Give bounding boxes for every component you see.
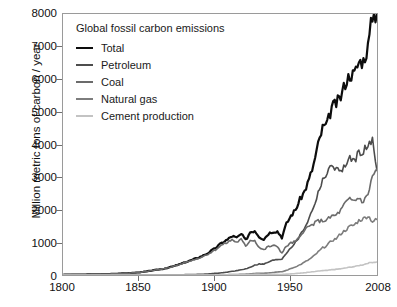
legend-swatch-icon: [76, 64, 93, 66]
legend-swatch-icon: [76, 98, 93, 100]
x-tick-label: 2008: [365, 281, 391, 293]
x-tick-mark: [214, 276, 215, 281]
legend-item: Total: [74, 39, 284, 56]
legend-item-label: Cement production: [101, 110, 194, 122]
legend-item: Petroleum: [74, 56, 284, 73]
chart-legend: Global fossil carbon emissions TotalPetr…: [74, 22, 284, 124]
series-line-petroleum: [63, 137, 377, 275]
legend-swatch-icon: [76, 81, 93, 83]
legend-title: Global fossil carbon emissions: [76, 22, 284, 34]
y-tick-mark: [56, 210, 62, 211]
y-tick-mark: [56, 79, 62, 80]
y-tick-mark: [56, 46, 62, 47]
x-tick-label: 1950: [277, 281, 303, 293]
x-tick-label: 1800: [49, 281, 75, 293]
y-tick-mark: [56, 112, 62, 113]
legend-item-label: Total: [101, 42, 124, 54]
legend-item: Natural gas: [74, 90, 284, 107]
legend-item: Coal: [74, 73, 284, 90]
series-line-coal: [63, 169, 377, 275]
legend-item: Cement production: [74, 107, 284, 124]
chart-figure: Million metric tons of carbon / year 010…: [0, 0, 397, 307]
x-tick-label: 1850: [125, 281, 151, 293]
x-tick-mark: [290, 276, 291, 281]
y-tick-mark: [56, 145, 62, 146]
legend-item-label: Coal: [101, 76, 124, 88]
y-tick-mark: [56, 243, 62, 244]
x-tick-mark: [138, 276, 139, 281]
legend-items: TotalPetroleumCoalNatural gasCement prod…: [74, 39, 284, 124]
legend-item-label: Petroleum: [101, 59, 151, 71]
legend-swatch-icon: [76, 115, 93, 117]
legend-item-label: Natural gas: [101, 93, 157, 105]
y-tick-mark: [56, 177, 62, 178]
legend-swatch-icon: [76, 47, 93, 49]
x-tick-label: 1900: [201, 281, 227, 293]
